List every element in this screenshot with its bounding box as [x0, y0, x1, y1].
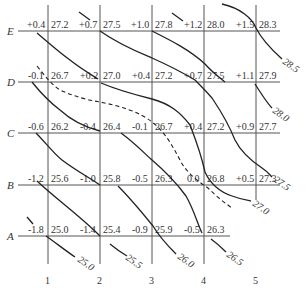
offset-E4: +1.2: [184, 19, 202, 30]
value-B3: 26.3: [155, 173, 173, 184]
offset-A3: -0.9: [132, 224, 148, 235]
value-E3: 27.8: [155, 19, 173, 30]
value-B2: 25.8: [103, 173, 121, 184]
value-A1: 25.0: [51, 224, 69, 235]
row-label-A: A: [6, 230, 14, 242]
col-label-5: 5: [253, 275, 258, 286]
value-C2: 26.4: [103, 121, 121, 132]
offset-B4: 0.0: [187, 173, 200, 184]
row-label-E: E: [6, 25, 14, 37]
row-label-B: B: [7, 179, 14, 191]
value-E1: 27.2: [51, 19, 69, 30]
offset-B5: +0.5: [236, 173, 254, 184]
col-label-2: 2: [97, 275, 102, 286]
contour-label-25-0: 25.0: [76, 254, 97, 273]
offset-C4: +0.4: [184, 121, 202, 132]
contour-27-5: [100, 31, 272, 177]
offset-D5: +1.1: [236, 70, 254, 81]
col-label-1: 1: [45, 275, 50, 286]
offset-B2: -1.0: [80, 173, 96, 184]
offset-E1: +0.4: [27, 19, 45, 30]
offset-C5: +0.9: [236, 121, 254, 132]
value-C3: 26.7: [155, 121, 173, 132]
offset-D1: -0.1: [28, 70, 44, 81]
contour-label-28-5: 28.5: [281, 56, 302, 75]
value-D3: 27.2: [155, 70, 173, 81]
value-E4: 28.0: [207, 19, 225, 30]
value-D5: 27.9: [259, 70, 277, 81]
contour-25-0: [27, 217, 75, 257]
contour-label-26-0: 26.0: [176, 251, 197, 270]
contour-25-5: [37, 181, 127, 256]
col-label-3: 3: [149, 275, 154, 286]
offset-C3: -0.1: [132, 121, 148, 132]
value-B1: 25.6: [51, 173, 69, 184]
contour-label-27-0: 27.0: [251, 198, 272, 217]
offset-A1: -1.8: [28, 224, 44, 235]
value-E5: 28.3: [259, 19, 277, 30]
value-C4: 27.2: [207, 121, 225, 132]
row-label-C: C: [7, 127, 15, 139]
offset-B1: -1.2: [28, 173, 44, 184]
offset-D3: +0.4: [132, 70, 150, 81]
col-label-4: 4: [201, 275, 206, 286]
value-E2: 27.5: [103, 19, 121, 30]
value-C1: 26.2: [51, 121, 69, 132]
value-B4: 26.8: [207, 173, 225, 184]
offset-E3: +1.0: [131, 19, 149, 30]
grid-contour-diagram: E D C B A 1 2 3 4 5 +0.4 27.2 +0.7 27.5 …: [0, 0, 306, 295]
column-labels: 1 2 3 4 5: [45, 275, 258, 286]
offset-D2: +0.2: [80, 70, 98, 81]
contour-label-25-5: 25.5: [124, 252, 145, 271]
contour-labels: 25.0 25.5 26.0 26.5 27.0 27.5 28.0 28.5: [76, 56, 302, 273]
row-labels: E D C B A: [6, 25, 15, 242]
value-A4: 26.3: [207, 224, 225, 235]
offset-A4: -0.5: [184, 224, 200, 235]
offset-B3: -0.5: [132, 173, 148, 184]
value-D1: 26.7: [51, 70, 69, 81]
offset-E2: +0.7: [79, 19, 97, 30]
row-A-values: -1.8 25.0 -1.4 25.4 -0.9 25.9 -0.5 26.3: [28, 224, 225, 235]
value-D2: 27.0: [103, 70, 121, 81]
value-C5: 27.7: [259, 121, 277, 132]
contour-fragment-E4: [172, 13, 183, 21]
row-label-D: D: [6, 76, 15, 88]
contour-label-26-5: 26.5: [225, 249, 246, 268]
offset-C1: -0.6: [28, 121, 44, 132]
value-A2: 25.4: [103, 224, 121, 235]
